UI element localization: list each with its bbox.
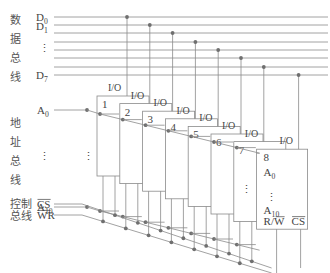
chip-number: 3	[148, 113, 154, 125]
wr-junction	[124, 226, 128, 230]
cs-junction	[113, 213, 117, 217]
data-junction-8	[297, 73, 301, 77]
data-bus	[54, 17, 328, 75]
io-label: I/O	[245, 128, 258, 139]
data-junction-6	[239, 56, 243, 60]
data-junction-5	[216, 48, 220, 52]
address-bus-label-char: 线	[10, 173, 21, 187]
io-label: I/O	[176, 105, 189, 116]
data-junction-1	[125, 15, 129, 19]
cs-junction	[204, 244, 208, 248]
chip-number: 8	[264, 151, 270, 163]
address-ellipsis-left: ⋮	[39, 150, 50, 162]
data-bus-label-char: 数	[10, 14, 21, 27]
label-wr: WR	[37, 209, 55, 221]
io-label: I/O	[222, 120, 235, 131]
io-label: I/O	[199, 112, 212, 123]
data-junction-4	[194, 40, 198, 44]
wr-junction	[238, 261, 242, 265]
cs-junction	[250, 259, 254, 263]
io-label: I/O	[108, 82, 121, 93]
chip-number: 5	[193, 128, 199, 140]
wr-junction	[170, 240, 174, 244]
data-junction-7	[262, 65, 266, 69]
io-label: I/O	[280, 135, 293, 146]
data-ellipsis: ⋮	[39, 42, 50, 54]
io-label: I/O	[131, 90, 144, 101]
memory-expansion-diagram: D0D1⋮D7数据总线12345678I/OI/OI/OI/OI/OI/OI/O…	[0, 0, 330, 273]
label-a0: A0	[37, 104, 49, 119]
cs-junction	[159, 229, 163, 233]
label-d7: D7	[36, 69, 48, 84]
io-label: I/O	[154, 97, 167, 108]
chip8-cs-label: CS	[292, 215, 305, 227]
wr-junction	[192, 247, 196, 251]
address-ellipsis-mid: ⋮	[83, 150, 94, 162]
address-bus-label-char: 址	[10, 135, 21, 149]
data-bus-label-char: 线	[10, 70, 21, 84]
control-bus-label: 总线	[10, 209, 32, 223]
cs-junction	[227, 252, 231, 256]
address-bus-label-char: 地	[10, 117, 21, 130]
chip-number: 1	[102, 98, 108, 110]
chip-number: 2	[125, 106, 131, 118]
chip8-ellipsis: ⋮	[266, 191, 277, 203]
cs-junction	[136, 221, 140, 225]
cs-junction	[182, 236, 186, 240]
wr-junction	[215, 254, 219, 258]
data-bus-label-char: 据	[10, 32, 21, 46]
data-junction-3	[171, 31, 175, 35]
data-bus-label-char: 总	[10, 51, 21, 65]
wr-junction	[101, 220, 105, 224]
address-bus-label-char: 总	[10, 154, 21, 168]
wr-junction	[147, 233, 151, 237]
chip7-ellipsis: ⋮	[241, 183, 252, 195]
control-bus-label: 控制	[10, 197, 32, 211]
data-junction-2	[148, 23, 152, 27]
